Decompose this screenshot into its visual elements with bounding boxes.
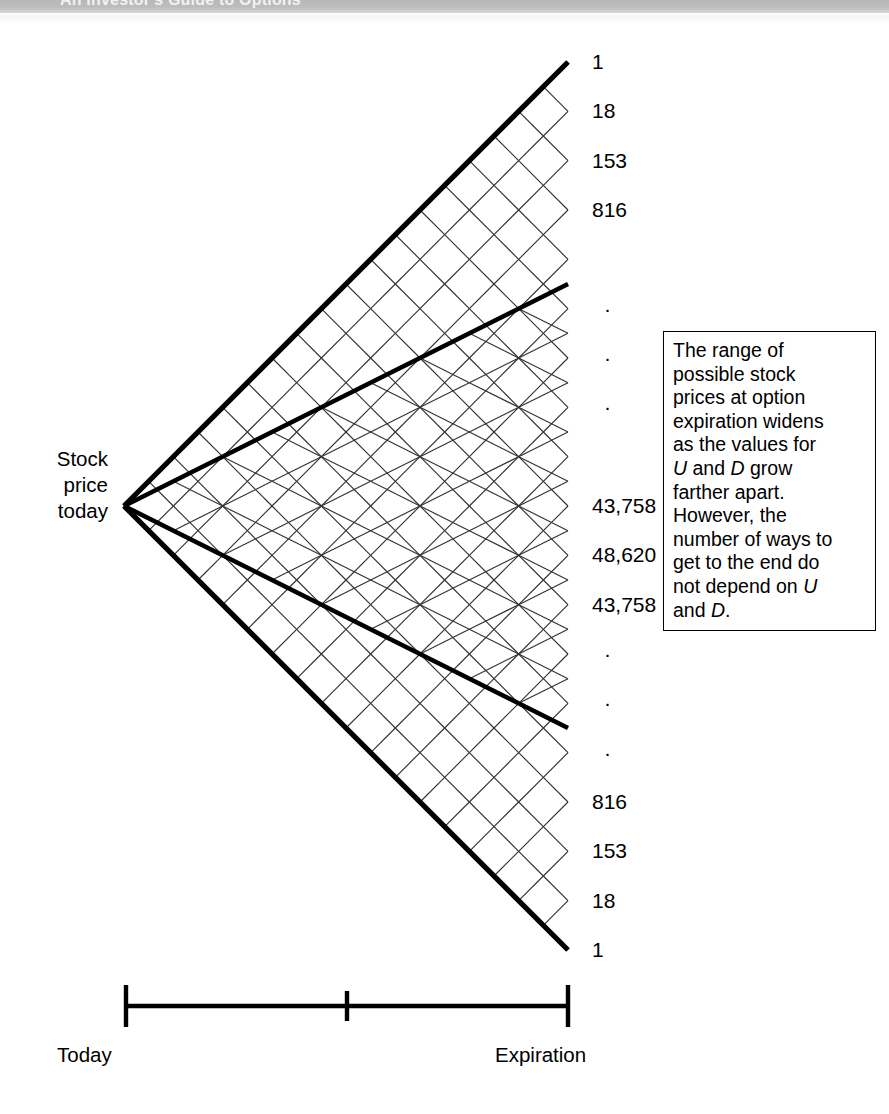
callout-line-6: U and D grow	[673, 457, 867, 481]
callout-line-10: get to the end do	[673, 551, 867, 575]
callout-line-12-pre: and	[673, 599, 711, 621]
terminal-node-value: 153	[592, 840, 627, 861]
stock-label-line-3: today	[0, 498, 108, 524]
terminal-node-value: 18	[592, 890, 615, 911]
terminal-ellipsis-dot: ·	[604, 692, 611, 713]
terminal-ellipsis-dot: ·	[604, 643, 611, 664]
callout-line-8: However, the	[673, 504, 867, 528]
lattice-grid-thin	[124, 62, 568, 950]
callout-line-5: as the values for	[673, 433, 867, 457]
outer-diamond-outline	[124, 62, 568, 950]
callout-box: The range of possible stock prices at op…	[663, 331, 876, 631]
stock-label-line-2: price	[0, 472, 108, 498]
figure-page: An Investor's Guide to Options Stock pri…	[0, 0, 889, 1114]
terminal-ellipsis-dot: ·	[604, 347, 611, 368]
terminal-node-value: 816	[592, 199, 627, 220]
callout-line-2: possible stock	[673, 363, 867, 387]
callout-line-3: prices at option	[673, 386, 867, 410]
axis-label-today: Today	[57, 1043, 112, 1067]
terminal-ellipsis-dot: ·	[604, 396, 611, 417]
terminal-ellipsis-dot: ·	[604, 742, 611, 763]
inner-diamond-outline	[124, 284, 568, 728]
terminal-ellipsis-dot: ·	[604, 298, 611, 319]
terminal-node-value: 1	[592, 939, 604, 960]
terminal-node-value: 48,620	[592, 544, 656, 565]
callout-var-u-1: U	[673, 457, 687, 479]
callout-var-d-2: D	[711, 599, 725, 621]
terminal-node-value: 18	[592, 100, 615, 121]
terminal-node-value: 153	[592, 150, 627, 171]
callout-line-12: and D.	[673, 599, 867, 623]
callout-line-6-mid: and	[687, 457, 730, 479]
callout-line-6-post: grow	[745, 457, 793, 479]
stock-price-today-label: Stock price today	[0, 446, 108, 524]
callout-var-d-1: D	[730, 457, 744, 479]
callout-line-12-post: .	[725, 599, 730, 621]
callout-var-u-2: U	[803, 575, 817, 597]
terminal-node-value: 1	[592, 51, 604, 72]
callout-line-11: not depend on U	[673, 575, 867, 599]
terminal-node-value: 43,758	[592, 495, 656, 516]
callout-line-7: farther apart.	[673, 481, 867, 505]
axis-label-expiration: Expiration	[495, 1043, 586, 1067]
callout-line-9: number of ways to	[673, 528, 867, 552]
callout-line-11-pre: not depend on	[673, 575, 803, 597]
timeline-axis	[126, 985, 568, 1027]
callout-line-4: expiration widens	[673, 410, 867, 434]
terminal-node-value: 816	[592, 791, 627, 812]
stock-label-line-1: Stock	[0, 446, 108, 472]
terminal-node-value: 43,758	[592, 594, 656, 615]
callout-line-1: The range of	[673, 339, 867, 363]
